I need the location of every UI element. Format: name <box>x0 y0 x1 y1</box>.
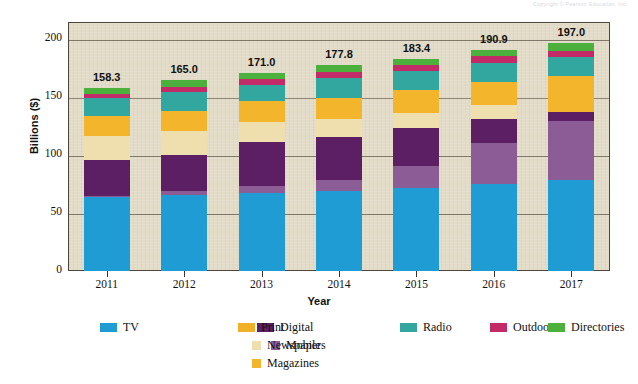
bar-segment-newspapers <box>161 131 207 154</box>
x-axis-tick-mark <box>107 271 108 277</box>
bar-segment-radio <box>161 92 207 111</box>
x-axis-tick-mark <box>184 271 185 277</box>
bar-segment-radio <box>393 71 439 91</box>
legend-swatch-print <box>238 323 255 332</box>
chart-legend: TVDigitalMobilePrintNewspapersMagazinesR… <box>0 318 638 380</box>
bar-segment-digital <box>471 119 517 143</box>
legend-column: Outdoor <box>490 318 553 336</box>
bar-segment-digital <box>548 112 594 121</box>
y-axis-tick-label: 200 <box>30 31 62 43</box>
bar-segment-outdoor <box>161 87 207 92</box>
bar-segment-magazines <box>548 76 594 112</box>
bar-total-label: 183.4 <box>376 42 456 54</box>
legend-label: Outdoor <box>513 320 553 335</box>
bar-segment-mobile <box>393 166 439 189</box>
bar-2014 <box>316 65 362 271</box>
bar-segment-outdoor <box>471 56 517 62</box>
legend-item-print[interactable]: Print <box>238 318 326 336</box>
bar-segment-digital <box>239 142 285 186</box>
bar-2016 <box>471 50 517 271</box>
bar-total-label: 197.0 <box>531 26 611 38</box>
legend-column: PrintNewspapersMagazines <box>238 318 326 372</box>
bar-segment-newspapers <box>84 136 130 160</box>
bar-segment-directories <box>239 73 285 79</box>
bar-segment-directories <box>84 88 130 94</box>
bar-segment-newspapers <box>316 119 362 137</box>
bar-segment-outdoor <box>548 51 594 57</box>
bar-2012 <box>161 80 207 271</box>
x-axis-tick-mark <box>339 271 340 277</box>
x-axis-title: Year <box>0 295 638 307</box>
legend-label: Newspapers <box>267 338 326 353</box>
x-axis-tick-mark <box>262 271 263 277</box>
bar-2017 <box>548 43 594 271</box>
bar-segment-digital <box>161 155 207 191</box>
bar-segment-newspapers <box>239 122 285 142</box>
bar-segment-newspapers <box>393 113 439 128</box>
legend-column: Directories <box>548 318 624 336</box>
bar-segment-mobile <box>161 191 207 195</box>
bar-segment-magazines <box>316 98 362 119</box>
legend-label: Magazines <box>267 356 319 371</box>
legend-item-magazines[interactable]: Magazines <box>238 354 326 372</box>
legend-item-tv[interactable]: TV <box>100 318 139 336</box>
legend-swatch-tv <box>100 323 117 332</box>
bar-total-label: 190.9 <box>454 33 534 45</box>
legend-item-directories[interactable]: Directories <box>548 318 624 336</box>
bar-segment-radio <box>548 57 594 76</box>
bar-total-label: 171.0 <box>222 56 302 68</box>
bar-segment-tv <box>84 197 130 271</box>
chart-page: Copyright © Pearson Education, Inc. 0501… <box>0 0 638 384</box>
bar-total-label: 158.3 <box>67 71 147 83</box>
bar-segment-directories <box>393 59 439 65</box>
x-axis-tick-label: 2017 <box>531 278 611 290</box>
bar-segment-tv <box>393 188 439 271</box>
legend-item-radio[interactable]: Radio <box>400 318 452 336</box>
legend-label: Radio <box>423 320 452 335</box>
bar-segment-mobile <box>316 180 362 190</box>
x-axis-tick-label: 2016 <box>454 278 534 290</box>
bar-segment-tv <box>548 180 594 271</box>
x-axis-tick-mark <box>571 271 572 277</box>
bar-segment-digital <box>393 128 439 166</box>
bar-segment-newspapers <box>471 105 517 118</box>
bar-segment-radio <box>84 98 130 115</box>
bar-segment-tv <box>161 195 207 271</box>
bar-segment-radio <box>316 78 362 98</box>
bar-segment-tv <box>471 184 517 271</box>
y-axis-tick-label: 50 <box>30 205 62 217</box>
y-axis-title: Billions ($) <box>28 98 40 154</box>
legend-item-outdoor[interactable]: Outdoor <box>490 318 553 336</box>
legend-swatch-outdoor <box>490 323 507 332</box>
bar-segment-radio <box>239 85 285 102</box>
legend-swatch-magazines <box>252 359 261 368</box>
bar-2013 <box>239 73 285 271</box>
legend-label: Print <box>261 320 284 335</box>
bar-segment-digital <box>316 137 362 180</box>
legend-label: Directories <box>571 320 624 335</box>
bar-segment-magazines <box>471 82 517 106</box>
bar-segment-outdoor <box>84 94 130 98</box>
bar-segment-mobile <box>548 121 594 180</box>
x-axis-tick-label: 2015 <box>376 278 456 290</box>
bar-segment-directories <box>548 43 594 51</box>
legend-swatch-directories <box>548 323 565 332</box>
bar-segment-mobile <box>84 196 130 198</box>
bar-segment-magazines <box>161 111 207 132</box>
y-axis-tick-label: 0 <box>30 263 62 275</box>
bar-segment-directories <box>316 65 362 72</box>
bar-segment-directories <box>471 50 517 56</box>
bar-segment-tv <box>316 191 362 271</box>
bar-segment-outdoor <box>393 65 439 71</box>
bar-total-label: 177.8 <box>299 48 379 60</box>
bar-segment-outdoor <box>239 79 285 84</box>
bar-segment-digital <box>84 160 130 196</box>
legend-swatch-radio <box>400 323 417 332</box>
x-axis-tick-mark <box>416 271 417 277</box>
copyright-note: Copyright © Pearson Education, Inc. <box>533 1 628 7</box>
legend-item-newspapers[interactable]: Newspapers <box>238 336 326 354</box>
bar-segment-directories <box>161 80 207 88</box>
bar-2011 <box>84 88 130 271</box>
legend-column: Radio <box>400 318 452 336</box>
legend-column: TV <box>100 318 139 336</box>
